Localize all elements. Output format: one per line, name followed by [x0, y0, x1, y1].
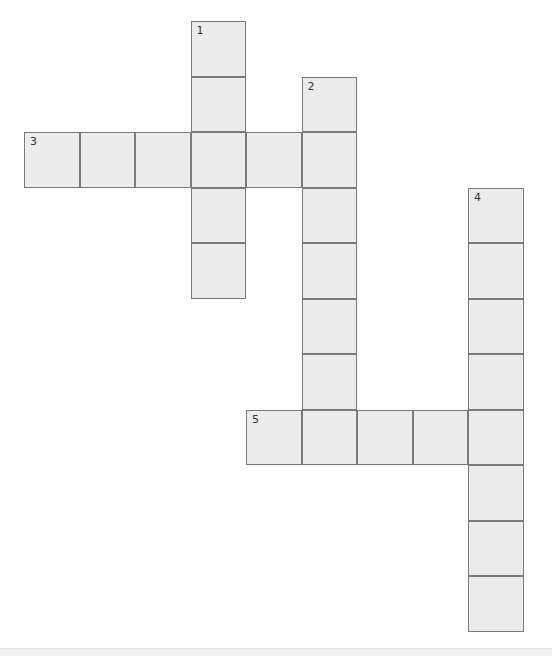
cell-input[interactable] [469, 522, 523, 576]
crossword-cell[interactable]: 2 [302, 77, 358, 133]
cell-input[interactable] [303, 411, 357, 465]
cell-input[interactable] [469, 300, 523, 354]
crossword-cell[interactable] [135, 132, 191, 188]
crossword-cell[interactable]: 4 [468, 188, 524, 244]
crossword-cell[interactable] [191, 188, 247, 244]
cell-input[interactable] [192, 244, 246, 298]
crossword-cell[interactable] [302, 410, 358, 466]
crossword-cell[interactable] [191, 132, 247, 188]
cell-input[interactable] [81, 133, 135, 187]
cell-input[interactable] [469, 466, 523, 520]
crossword-cell[interactable] [302, 354, 358, 410]
bottom-band [0, 648, 552, 656]
cell-input[interactable] [469, 577, 523, 631]
cell-input[interactable] [247, 411, 301, 465]
cell-input[interactable] [136, 133, 190, 187]
crossword-cell[interactable] [246, 132, 302, 188]
cell-input[interactable] [303, 300, 357, 354]
crossword-cell[interactable] [468, 521, 524, 577]
cell-input[interactable] [192, 78, 246, 132]
crossword-cell[interactable] [302, 188, 358, 244]
cell-input[interactable] [247, 133, 301, 187]
crossword-grid: 12345 [0, 0, 552, 648]
cell-input[interactable] [303, 244, 357, 298]
crossword-cell[interactable]: 1 [191, 21, 247, 77]
crossword-cell[interactable] [413, 410, 469, 466]
crossword-cell[interactable]: 5 [246, 410, 302, 466]
crossword-cell[interactable] [468, 243, 524, 299]
crossword-cell[interactable] [191, 77, 247, 133]
cell-input[interactable] [303, 78, 357, 132]
cell-input[interactable] [303, 189, 357, 243]
crossword-cell[interactable] [357, 410, 413, 466]
crossword-cell[interactable] [302, 299, 358, 355]
cell-input[interactable] [469, 411, 523, 465]
cell-input[interactable] [358, 411, 412, 465]
cell-input[interactable] [192, 22, 246, 76]
cell-input[interactable] [192, 189, 246, 243]
cell-input[interactable] [469, 355, 523, 409]
crossword-cell[interactable] [302, 243, 358, 299]
crossword-cell[interactable] [468, 410, 524, 466]
crossword-cell[interactable] [302, 132, 358, 188]
crossword-cell[interactable] [468, 465, 524, 521]
cell-input[interactable] [469, 189, 523, 243]
crossword-cell[interactable] [80, 132, 136, 188]
cell-input[interactable] [25, 133, 79, 187]
crossword-cell[interactable] [468, 354, 524, 410]
crossword-cell[interactable] [468, 299, 524, 355]
crossword-cell[interactable] [468, 576, 524, 632]
cell-input[interactable] [414, 411, 468, 465]
cell-input[interactable] [303, 355, 357, 409]
cell-input[interactable] [303, 133, 357, 187]
cell-input[interactable] [192, 133, 246, 187]
crossword-cell[interactable]: 3 [24, 132, 80, 188]
crossword-cell[interactable] [191, 243, 247, 299]
cell-input[interactable] [469, 244, 523, 298]
